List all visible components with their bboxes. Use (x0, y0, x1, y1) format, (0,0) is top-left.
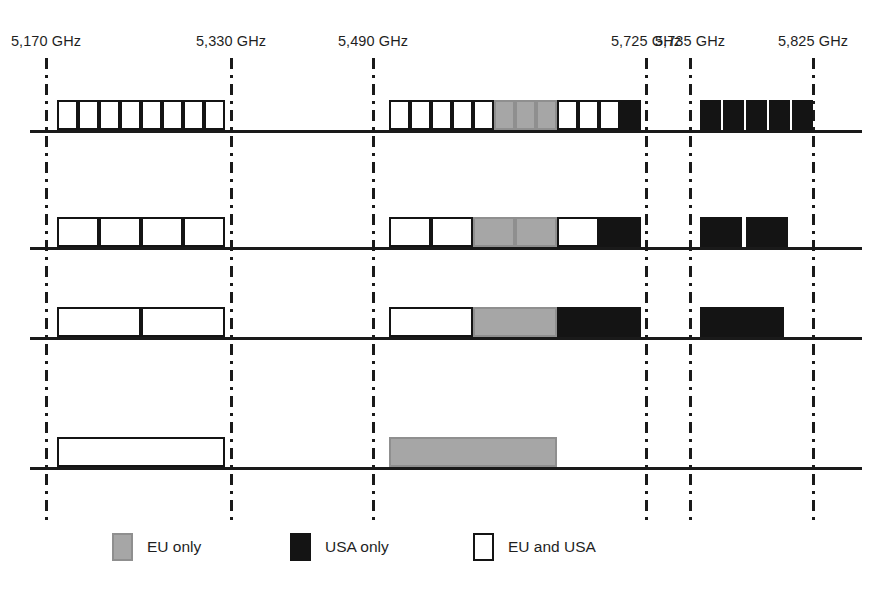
legend-label: USA only (325, 538, 389, 556)
legend-item-usa-only: USA only (290, 533, 389, 561)
frequency-marker-line (689, 58, 692, 525)
frequency-label: 5,825 GHz (778, 33, 848, 49)
channel-block (557, 217, 599, 247)
channel-block (99, 100, 120, 130)
channel-block (700, 217, 742, 247)
channel-block (141, 307, 225, 337)
channel-block (700, 100, 721, 130)
channel-block (431, 100, 452, 130)
channel-block (723, 100, 744, 130)
legend-item-eu-only: EU only (112, 533, 201, 561)
spectrum-allocation-diagram: 5,170 GHz5,330 GHz5,490 GHz5,725 GHz5,73… (0, 0, 888, 595)
frequency-label: 5,170 GHz (11, 33, 81, 49)
frequency-marker-line (230, 58, 233, 525)
legend-swatch-icon (290, 533, 311, 561)
legend-swatch-icon (473, 533, 494, 561)
row-baseline (30, 467, 862, 470)
channel-block (746, 217, 788, 247)
frequency-label: 5,735 GHz (655, 33, 725, 49)
channel-block (769, 100, 790, 130)
legend: EU onlyUSA onlyEU and USA (0, 533, 888, 573)
channel-block (183, 217, 225, 247)
channel-block (99, 217, 141, 247)
channel-block (473, 307, 557, 337)
frequency-label: 5,330 GHz (196, 33, 266, 49)
channel-block (452, 100, 473, 130)
channel-block (473, 217, 515, 247)
channel-block (204, 100, 225, 130)
channel-block (183, 100, 204, 130)
channel-block (578, 100, 599, 130)
channel-block (389, 100, 410, 130)
row-baseline (30, 130, 862, 133)
frequency-marker-line (645, 58, 648, 525)
channel-block (389, 307, 473, 337)
channel-block (700, 307, 784, 337)
channel-block (389, 437, 557, 467)
row-baseline (30, 247, 862, 250)
channel-block (141, 100, 162, 130)
channel-block (599, 100, 620, 130)
channel-block (57, 100, 78, 130)
channel-block (515, 100, 536, 130)
channel-block (120, 100, 141, 130)
channel-block (389, 217, 431, 247)
legend-item-eu-and-usa: EU and USA (473, 533, 596, 561)
channel-block (599, 217, 641, 247)
row-baseline (30, 337, 862, 340)
channel-block (557, 307, 641, 337)
channel-block (162, 100, 183, 130)
channel-block (141, 217, 183, 247)
channel-block (515, 217, 557, 247)
channel-block (557, 100, 578, 130)
channel-block (57, 217, 99, 247)
legend-swatch-icon (112, 533, 133, 561)
channel-block (57, 437, 225, 467)
frequency-marker-line (45, 58, 48, 525)
channel-block (746, 100, 767, 130)
legend-label: EU only (147, 538, 201, 556)
channel-block (78, 100, 99, 130)
frequency-marker-line (372, 58, 375, 525)
frequency-label: 5,490 GHz (338, 33, 408, 49)
channel-block (57, 307, 141, 337)
channel-block (620, 100, 641, 130)
channel-block (410, 100, 431, 130)
channel-block (473, 100, 494, 130)
legend-label: EU and USA (508, 538, 596, 556)
channel-block (536, 100, 557, 130)
channel-block (431, 217, 473, 247)
channel-block (494, 100, 515, 130)
channel-block (792, 100, 813, 130)
